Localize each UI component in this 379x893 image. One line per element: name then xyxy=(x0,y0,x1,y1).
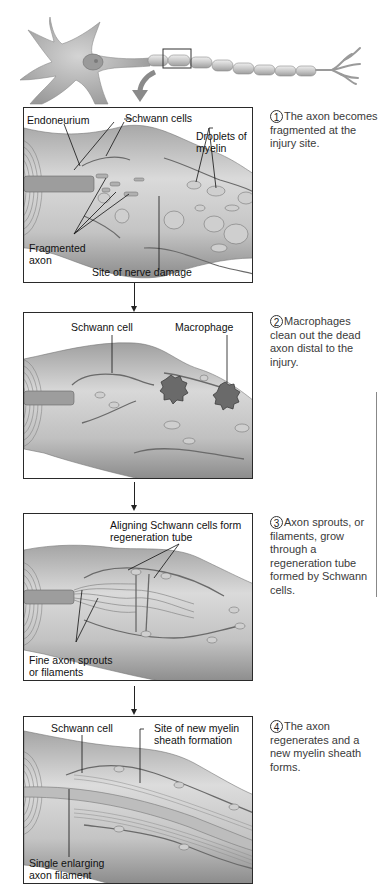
label-site-of-nerve-damage: Site of nerve damage xyxy=(92,266,192,278)
step-1-panel: Endoneurium Schwann cells Droplets of my… xyxy=(23,107,253,283)
step-3-panel: Aligning Schwann cells form regeneration… xyxy=(23,513,253,681)
step-2-panel: Schwann cell Macrophage xyxy=(23,312,253,479)
step-4-panel: Schwann cell Site of new myelin sheath f… xyxy=(23,716,253,884)
label-site-of-new-myelin-1: Site of new myelin xyxy=(154,722,239,734)
label-single-enlarging-axon-2: axon filament xyxy=(29,869,91,881)
label-droplets-of-myelin-2: myelin xyxy=(196,142,226,154)
label-single-enlarging-axon-1: Single enlarging xyxy=(29,857,104,869)
step-1-caption: 1The axon becomes fragmented at the inju… xyxy=(270,110,378,151)
label-macrophage: Macrophage xyxy=(175,321,233,333)
neuron-overview-illustration xyxy=(0,0,379,105)
step-1-caption-text: The axon becomes fragmented at the injur… xyxy=(270,110,378,149)
step-4-caption: 4The axon regenerates and a new myelin s… xyxy=(270,720,378,774)
magnify-arrow xyxy=(140,72,155,92)
label-endoneurium: Endoneurium xyxy=(27,114,89,126)
label-schwann-cell: Schwann cell xyxy=(71,321,133,333)
label-fine-axon-sprouts-2: or filaments xyxy=(29,666,83,678)
proximal-axon xyxy=(24,176,94,192)
macrophage-cleanup-illustration xyxy=(24,313,253,479)
label-site-of-new-myelin-2: sheath formation xyxy=(154,734,232,746)
axon-terminal xyxy=(316,48,360,84)
step-number-badge: 2 xyxy=(270,315,283,328)
label-fragmented-axon-2: axon xyxy=(29,254,52,266)
myelinated-axon xyxy=(148,55,316,76)
step-4-caption-text: The axon regenerates and a new myelin sh… xyxy=(270,720,361,773)
label-schwann-cell: Schwann cell xyxy=(51,722,113,734)
flow-arrow-3-4 xyxy=(134,686,135,710)
label-schwann-cells: Schwann cells xyxy=(125,112,192,124)
step-2-caption-text: Macrophages clean out the dead axon dist… xyxy=(270,315,361,368)
step-2-caption: 2Macrophages clean out the dead axon dis… xyxy=(270,315,378,369)
page-edge-rule xyxy=(376,392,377,597)
nucleus xyxy=(83,54,103,70)
label-fragmented-axon-1: Fragmented xyxy=(29,242,86,254)
step-3-caption: 3Axon sprouts, or filaments, grow throug… xyxy=(270,516,378,597)
step-number-badge: 3 xyxy=(270,516,283,529)
label-aligning-schwann-cells-2: regeneration tube xyxy=(110,531,192,543)
step-number-badge: 4 xyxy=(270,720,283,733)
flow-arrow-2-3 xyxy=(134,482,135,506)
flow-arrow-1-2 xyxy=(134,283,135,307)
step-3-caption-text: Axon sprouts, or filaments, grow through… xyxy=(270,516,367,596)
step-number-badge: 1 xyxy=(270,110,283,123)
label-fine-axon-sprouts-1: Fine axon sprouts xyxy=(29,654,112,666)
label-droplets-of-myelin-1: Droplets of xyxy=(196,130,247,142)
label-aligning-schwann-cells-1: Aligning Schwann cells form xyxy=(110,519,241,531)
